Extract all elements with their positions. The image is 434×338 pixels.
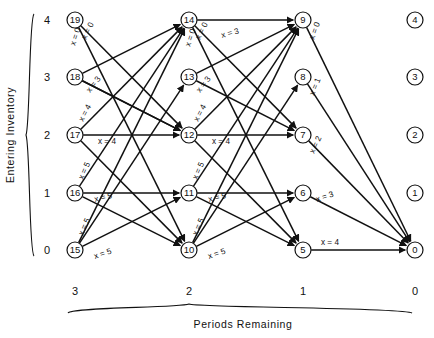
node-label: 16: [70, 187, 81, 198]
edge-label-10-6: x = 5: [207, 246, 227, 261]
node-label: 3: [412, 71, 417, 82]
node-8[interactable]: 8: [295, 69, 311, 85]
edge-15-to-13: [80, 85, 184, 243]
node-15[interactable]: 15: [67, 242, 83, 258]
node-11[interactable]: 11: [181, 185, 197, 201]
node-label: 4: [412, 14, 417, 25]
x-tick-0: 0: [412, 285, 418, 297]
edge-label-14-9: x = 3: [220, 26, 240, 39]
node-label: 11: [184, 187, 194, 198]
node-label: 12: [184, 129, 195, 140]
y-tick-1: 1: [44, 187, 50, 199]
node-label: 13: [184, 71, 195, 82]
x-tick-2: 2: [186, 285, 192, 297]
y-axis-title: Entering Inventory: [4, 87, 16, 183]
node-18[interactable]: 18: [67, 69, 83, 85]
node-16[interactable]: 16: [67, 185, 83, 201]
edge-10-to-8: [194, 85, 298, 243]
node-6[interactable]: 6: [295, 185, 311, 201]
node-17[interactable]: 17: [67, 127, 83, 143]
node-14[interactable]: 14: [181, 12, 197, 28]
edge-label-12-9: x = 4: [192, 102, 209, 122]
x-tick-3: 3: [72, 285, 78, 297]
node-19[interactable]: 19: [67, 12, 83, 28]
node-12[interactable]: 12: [181, 127, 197, 143]
node-label: 10: [184, 244, 195, 255]
y-tick-2: 2: [44, 129, 50, 141]
node-label: 0: [412, 244, 417, 255]
y-tick-4: 4: [44, 14, 50, 26]
node-1[interactable]: 1: [407, 185, 423, 201]
edge-label-5-0: x = 4: [321, 238, 339, 247]
edge-8-to-0: [307, 84, 409, 242]
node-5[interactable]: 5: [295, 242, 311, 258]
y-tick-0: 0: [44, 244, 50, 256]
node-label: 1: [412, 187, 417, 198]
edge-9-to-0: [307, 27, 411, 241]
y-tick-3: 3: [44, 71, 50, 83]
node-10[interactable]: 10: [181, 242, 197, 258]
network-diagram: 191817161514131211109876543210 43210Ente…: [0, 0, 434, 338]
edge-16-to-14: [80, 28, 184, 186]
node-label: 19: [70, 14, 81, 25]
node-label: 2: [412, 129, 417, 140]
node-3[interactable]: 3: [407, 69, 423, 85]
figure-canvas: 191817161514131211109876543210 43210Ente…: [0, 0, 434, 338]
node-9[interactable]: 9: [295, 12, 311, 28]
edge-12-to-5: [195, 141, 296, 243]
edge-label-17-12: x = 4: [98, 137, 116, 146]
edge-label-18-14: x = 3: [84, 74, 102, 94]
node-label: 17: [70, 129, 81, 140]
node-4[interactable]: 4: [407, 12, 423, 28]
edge-13-to-7: [196, 81, 294, 131]
node-13[interactable]: 13: [181, 69, 197, 85]
node-label: 8: [300, 71, 305, 82]
node-label: 5: [300, 244, 305, 255]
node-label: 15: [70, 244, 81, 255]
edge-label-6-0: x = 3: [315, 190, 335, 204]
node-label: 6: [300, 187, 305, 198]
edge-17-to-10: [81, 141, 182, 243]
node-label: 9: [300, 14, 305, 25]
axes-layer: 43210Entering Inventory3210Periods Remai…: [4, 14, 418, 330]
x-tick-1: 1: [300, 285, 306, 297]
y-axis-brace: [26, 14, 34, 256]
edges-layer: [79, 20, 411, 250]
node-2[interactable]: 2: [407, 127, 423, 143]
edge-11-to-9: [194, 28, 298, 186]
x-axis-title: Periods Remaining: [194, 318, 293, 330]
edge-18-to-12: [82, 81, 180, 131]
x-axis-brace: [68, 304, 412, 313]
node-0[interactable]: 0: [407, 242, 423, 258]
edge-label-15-11: x = 5: [93, 246, 113, 261]
node-label: 14: [184, 14, 195, 25]
edge-label-12-7: x = 4: [212, 137, 230, 146]
node-label: 18: [70, 71, 81, 82]
node-label: 7: [300, 129, 305, 140]
node-7[interactable]: 7: [295, 127, 311, 143]
